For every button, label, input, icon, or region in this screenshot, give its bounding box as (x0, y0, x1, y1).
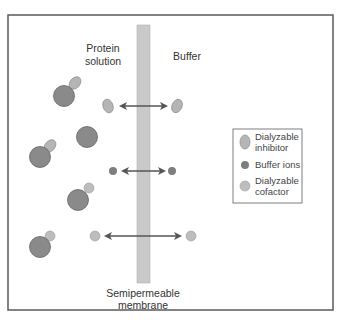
buffer-ion-right (168, 167, 176, 175)
free-cofactor-right (186, 231, 196, 241)
membrane-label-2: membrane (118, 299, 168, 311)
protein-free (77, 127, 98, 148)
protein-solution-label-1: Protein (86, 42, 119, 54)
svg-text:Dialyzable: Dialyzable (255, 131, 299, 142)
svg-text:cofactor: cofactor (255, 186, 289, 197)
membrane-label-1: Semipermeable (106, 287, 180, 299)
buffer-label: Buffer (173, 50, 201, 62)
buffer-ion-left (109, 167, 117, 175)
dialysis-diagram: Protein solution Buffer Semipermeable me… (0, 0, 337, 322)
protein-solution-label-2: solution (85, 55, 121, 67)
inhibitor-icon (240, 135, 250, 149)
svg-text:Dialyzable: Dialyzable (255, 175, 299, 186)
svg-text:Buffer ions: Buffer ions (255, 159, 300, 170)
free-cofactor-left (90, 231, 100, 241)
semipermeable-membrane (137, 25, 150, 283)
svg-text:inhibitor: inhibitor (255, 142, 288, 153)
buffer-ion-icon (241, 161, 249, 169)
legend: Dialyzable inhibitor Buffer ions Dialyza… (233, 129, 302, 203)
cofactor-icon (240, 181, 250, 191)
